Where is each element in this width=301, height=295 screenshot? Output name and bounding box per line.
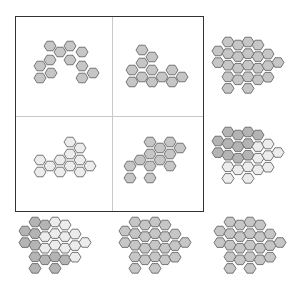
hexagon-cell: [264, 229, 276, 239]
hexagon-cell: [252, 40, 264, 50]
hexagon-cell: [129, 264, 141, 274]
hexagon-cell: [54, 155, 66, 165]
hexagon-cell: [144, 137, 156, 147]
hexagon-cell: [84, 161, 96, 171]
hexagon-cell: [54, 47, 66, 57]
hexagon-figures: [0, 0, 301, 295]
hexagon-cell: [242, 84, 254, 94]
hexagon-cell: [174, 143, 186, 153]
hexagon-cell: [76, 73, 88, 83]
hexagon-cell: [252, 130, 264, 140]
hexagon-cell: [54, 167, 66, 177]
hexagon-cell: [272, 148, 284, 158]
hexagon-cell: [169, 229, 181, 239]
hexagon-cell: [272, 58, 284, 68]
hexagon-cell: [136, 72, 148, 82]
panel-middle-center: [124, 137, 186, 183]
hexagon-cell: [262, 162, 274, 172]
hexagon-cell: [69, 252, 81, 262]
panel-top-center: [126, 45, 188, 87]
hexagon-cell: [262, 72, 274, 82]
hexagon-cell: [76, 61, 88, 71]
option-top-right[interactable]: [212, 37, 284, 93]
hexagon-cell: [87, 68, 99, 78]
hexagon-cell: [166, 77, 178, 87]
hexagon-cell: [64, 149, 76, 159]
hexagon-cell: [126, 77, 138, 87]
hexagon-cell: [164, 149, 176, 159]
hexagon-cell: [159, 220, 171, 230]
hexagon-cell: [274, 238, 286, 248]
hexagon-cell: [29, 264, 41, 274]
panel-top-left: [34, 41, 99, 83]
hexagon-cell: [45, 68, 57, 78]
hexagon-cell: [156, 72, 168, 82]
hexagon-cell: [64, 161, 76, 171]
hexagon-cell: [222, 84, 234, 94]
hexagon-cell: [136, 45, 148, 55]
hexagon-cell: [222, 174, 234, 184]
hexagon-cell: [154, 143, 166, 153]
hexagon-cell: [144, 149, 156, 159]
hexagon-cell: [146, 65, 158, 75]
hexagon-cell: [179, 238, 191, 248]
hexagon-cell: [34, 155, 46, 165]
hexagon-cell: [44, 161, 56, 171]
hexagon-cell: [44, 55, 56, 65]
hexagon-cell: [126, 65, 138, 75]
hexagon-cell: [124, 173, 136, 183]
hexagon-cell: [176, 72, 188, 82]
hexagon-cell: [154, 155, 166, 165]
hexagon-cell: [74, 167, 86, 177]
hexagon-cell: [262, 139, 274, 149]
hexagon-cell: [244, 264, 256, 274]
hexagon-cell: [76, 47, 88, 57]
option-bottom-right[interactable]: [214, 217, 286, 273]
hexagon-cell: [144, 161, 156, 171]
option-bottom-center[interactable]: [119, 217, 191, 273]
hexagon-cell: [64, 137, 76, 147]
hexagon-cell: [64, 41, 76, 51]
hexagon-cell: [169, 252, 181, 262]
hexagon-cell: [74, 155, 86, 165]
option-bottom-left[interactable]: [19, 217, 91, 273]
hexagon-cell: [79, 238, 91, 248]
hexagon-cell: [264, 252, 276, 262]
hexagon-cell: [34, 61, 46, 71]
hexagon-cell: [224, 264, 236, 274]
hexagon-cell: [44, 41, 56, 51]
hexagon-cell: [124, 161, 136, 171]
hexagon-cell: [164, 161, 176, 171]
hexagon-cell: [64, 55, 76, 65]
hexagon-cell: [146, 77, 158, 87]
hexagon-cell: [49, 264, 61, 274]
hexagon-cell: [74, 143, 86, 153]
hexagon-cell: [34, 167, 46, 177]
hexagon-cell: [164, 137, 176, 147]
hexagon-cell: [254, 220, 266, 230]
hexagon-cell: [69, 229, 81, 239]
hexagon-cell: [136, 58, 148, 68]
hexagon-cell: [59, 220, 71, 230]
option-middle-right[interactable]: [212, 127, 284, 183]
hexagon-cell: [144, 173, 156, 183]
hexagon-cell: [146, 52, 158, 62]
hexagon-cell: [166, 65, 178, 75]
hexagon-cell: [242, 174, 254, 184]
hexagon-cell: [149, 264, 161, 274]
hexagon-cell: [262, 49, 274, 59]
panel-middle-left: [34, 137, 96, 177]
hexagon-cell: [34, 73, 46, 83]
hexagon-cell: [134, 155, 146, 165]
